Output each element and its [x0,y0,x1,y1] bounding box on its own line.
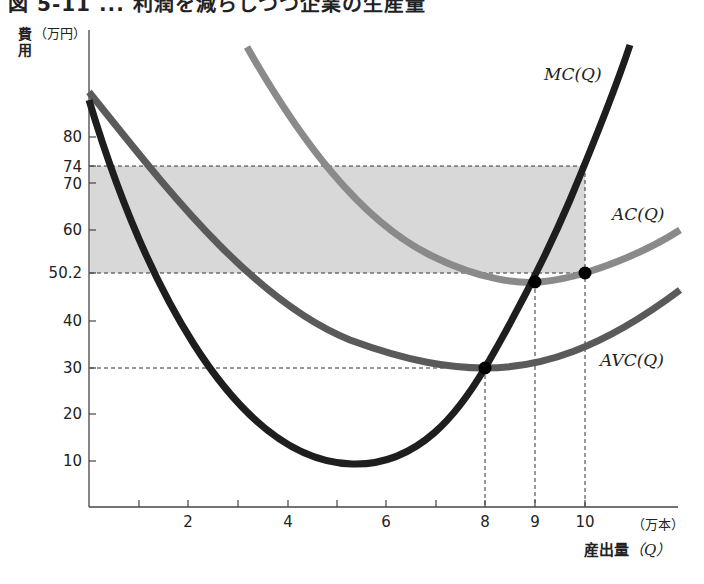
avc-curve-label: AVC(Q) [600,350,664,370]
y-axis-unit: （万円） [34,26,86,42]
x-tick-9: 9 [520,514,550,530]
x-ticks [139,500,585,507]
x-axis-unit: （万本） [632,514,684,533]
y-tick-30: 30 [22,360,82,376]
y-tick-80: 80 [22,129,82,145]
y-axis-title: 費 （万円） 用 [18,26,32,42]
y-tick-60: 60 [22,222,82,238]
cost-curve-chart [0,0,704,584]
y-tick-10: 10 [22,453,82,469]
y-axis-char1: 費 [18,26,32,42]
y-tick-50-2: 50.2 [22,265,82,281]
point-q9-ac-min [529,276,542,289]
x-axis-title: 産出量（Q） [584,538,671,559]
y-tick-40: 40 [22,313,82,329]
point-q8-avc-min [479,362,492,375]
x-axis-variable: （Q） [629,541,671,559]
x-tick-10: 10 [570,514,600,530]
y-tick-20: 20 [22,406,82,422]
y-tick-70: 70 [22,176,82,192]
point-q10-ac [579,267,592,280]
x-tick-6: 6 [371,514,401,530]
y-tick-74: 74 [22,159,82,175]
x-tick-2: 2 [173,514,203,530]
ac-curve-label: AC(Q) [612,204,665,224]
x-tick-8: 8 [470,514,500,530]
y-axis-char2: 用 [18,42,32,58]
x-tick-4: 4 [273,514,303,530]
mc-curve-label: MC(Q) [544,64,602,84]
x-axis-title-text: 産出量 [584,541,629,559]
